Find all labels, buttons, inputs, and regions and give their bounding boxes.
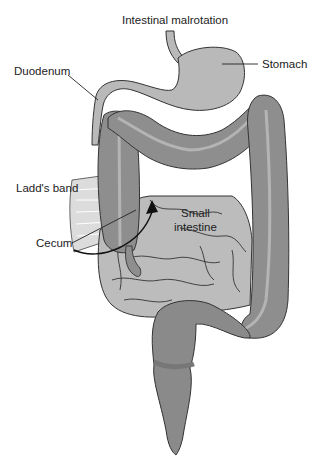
diagram-title: Intestinal malrotation	[122, 14, 228, 27]
label-small-intestine-line1: Small	[181, 207, 210, 220]
label-ladds-band: Ladd's band	[16, 182, 78, 195]
duodenum-leader-line	[68, 75, 98, 100]
label-small-intestine-line2: intestine	[174, 221, 217, 234]
label-cecum: Cecum	[36, 237, 72, 250]
sigmoid-rectum	[152, 301, 250, 455]
label-stomach: Stomach	[262, 58, 307, 71]
ascending-colon-stripe	[119, 122, 120, 246]
label-duodenum: Duodenum	[14, 65, 70, 78]
